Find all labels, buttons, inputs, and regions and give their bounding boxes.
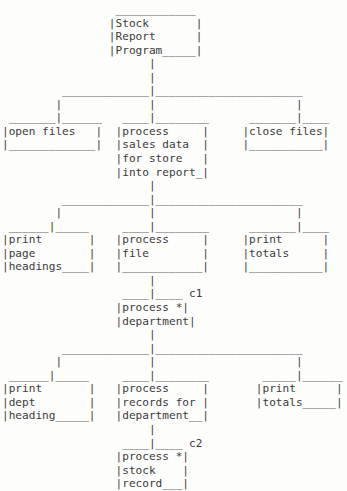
ascii-structure-chart: ____________ |Stock | |Report | |Program… — [2, 3, 343, 491]
